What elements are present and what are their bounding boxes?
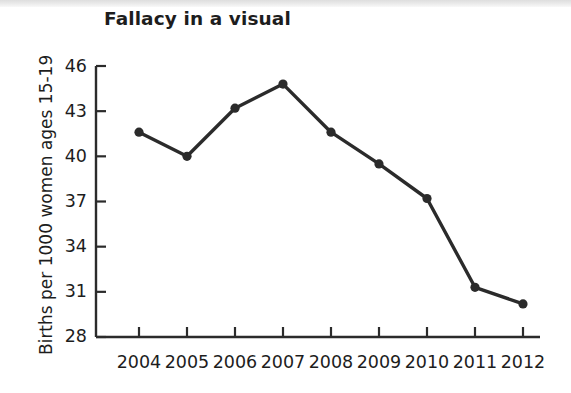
data-point-marker [422,194,431,203]
data-point-marker [326,128,335,137]
axis-lines [96,66,540,337]
data-point-marker [278,80,287,89]
y-axis-ticks [96,66,106,337]
data-point-marker [374,159,383,168]
data-point-marker [518,299,527,308]
data-point-marker [182,152,191,161]
plot-area [0,0,571,393]
data-series-line [139,84,523,304]
data-point-marker [134,128,143,137]
data-point-marker [470,283,479,292]
chart-figure: Fallacy in a visual Births per 1000 wome… [0,0,571,393]
data-point-marker [230,104,239,113]
x-axis-ticks [139,327,523,337]
